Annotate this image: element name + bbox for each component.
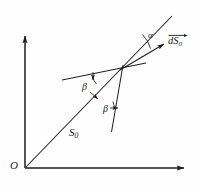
incident-ray-label: S0 [69, 127, 78, 140]
figure-container: O S0 α β β dS 0 [0, 0, 201, 186]
diagram-canvas [0, 0, 201, 186]
beta-lower-arc [113, 102, 116, 109]
scattered-vector-arrow [120, 44, 164, 70]
incident-ray-subscript: 0 [75, 131, 79, 140]
scattered-vector-symbol: dS [168, 35, 179, 46]
alpha-angle-label: α [148, 31, 153, 40]
beta-upper-angle-label: β [82, 82, 87, 92]
scattered-vector-label: dS 0 [168, 36, 182, 48]
scattered-vector-subscript: 0 [179, 40, 183, 48]
normal-line [112, 65, 124, 132]
plane-trace-line [62, 63, 146, 80]
beta-lower-angle-label: β [103, 104, 108, 114]
origin-label: O [10, 160, 18, 171]
scattered-vector-symbol-wrap: dS [168, 36, 179, 47]
